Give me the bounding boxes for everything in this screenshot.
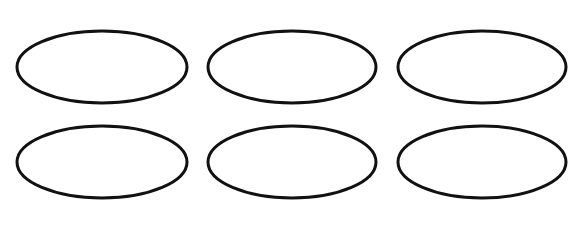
ellipse-grid — [0, 0, 584, 231]
ellipse-r2-c2 — [208, 126, 376, 198]
ellipse-r1-c3 — [398, 31, 566, 103]
ellipse-r1-c2 — [208, 31, 376, 103]
ellipse-r2-c3 — [398, 126, 566, 198]
ellipse-r1-c1 — [17, 31, 187, 103]
diagram-canvas — [0, 0, 584, 231]
ellipse-r2-c1 — [17, 126, 187, 198]
